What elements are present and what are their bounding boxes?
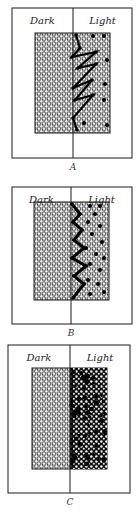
organism-dot <box>103 82 107 86</box>
organism-dot <box>103 433 106 436</box>
organism-dot <box>86 278 90 282</box>
track-point <box>90 78 94 82</box>
organism-dot <box>94 400 99 405</box>
track-point <box>72 274 76 278</box>
panel-c: DarkLightC <box>8 345 130 507</box>
organism-dot <box>83 434 87 438</box>
organism-dot <box>90 232 94 236</box>
organism-dot <box>83 395 88 400</box>
panel-caption: A <box>69 162 77 172</box>
organism-dot <box>88 399 90 401</box>
track-point <box>70 202 74 206</box>
organism-dot <box>73 455 77 459</box>
organism-dot <box>86 423 89 426</box>
organism-dot <box>98 450 101 453</box>
organism-dot <box>74 385 76 387</box>
organism-dot <box>84 461 89 466</box>
track-point <box>72 238 76 242</box>
light-side-label: Light <box>86 352 115 363</box>
organism-dot <box>102 256 106 260</box>
track-point <box>74 33 78 37</box>
organism-dot <box>102 98 106 102</box>
organism-dot <box>84 246 88 250</box>
light-side-label: Light <box>88 15 117 26</box>
dark-side-label: Dark <box>29 15 55 26</box>
organism-dot <box>85 380 90 385</box>
organism-dot <box>102 400 106 404</box>
track-point <box>94 50 98 54</box>
track-point <box>75 128 79 132</box>
organism-dot <box>100 395 102 397</box>
organism-dot <box>102 458 107 463</box>
track-point <box>71 220 75 224</box>
organism-dot <box>77 396 82 401</box>
organism-dot <box>94 430 97 433</box>
organism-dot <box>90 377 94 381</box>
light-dark-preference-figure: DarkLightADarkLightBDarkLightC <box>0 0 139 512</box>
organism-dot <box>91 34 95 38</box>
organism-dot <box>82 386 86 390</box>
organism-dot <box>86 220 90 224</box>
track-point <box>76 66 80 70</box>
organism-dot <box>94 252 98 256</box>
organism-dot <box>83 416 87 420</box>
track-point <box>78 46 82 50</box>
organism-dot <box>96 282 100 286</box>
light-side-label: Light <box>87 194 116 205</box>
organism-dot <box>88 262 92 266</box>
organism-dot <box>88 432 91 435</box>
dark-side-label: Dark <box>28 194 54 205</box>
organism-dot <box>88 292 92 296</box>
dark-side-label: Dark <box>26 352 52 363</box>
panel-caption: C <box>67 497 74 507</box>
track-point <box>71 86 75 90</box>
organism-dot <box>73 415 77 419</box>
organism-dot <box>103 412 106 415</box>
track-point <box>71 116 75 120</box>
track-point <box>94 62 98 66</box>
organism-dot <box>102 34 106 38</box>
organism-dot <box>85 411 88 414</box>
organism-dot <box>84 453 88 457</box>
organism-dot <box>92 382 95 385</box>
track-point <box>73 98 77 102</box>
panel-a: DarkLightA <box>12 8 132 172</box>
organism-dot <box>92 453 95 456</box>
track-point <box>91 93 95 97</box>
organism-dot <box>82 121 86 125</box>
organism-dot <box>98 224 102 228</box>
organism-dot <box>105 123 109 127</box>
organism-dot <box>98 385 101 388</box>
organism-dot <box>89 416 92 419</box>
organism-dot <box>100 414 103 417</box>
organism-dot <box>84 405 88 409</box>
organism-dot <box>102 290 106 294</box>
organism-dot <box>100 240 104 244</box>
organism-dot <box>102 419 104 421</box>
organism-dot <box>89 407 94 412</box>
organism-dot <box>93 212 97 216</box>
organism-dot <box>74 436 78 440</box>
organism-dot <box>79 371 83 375</box>
organism-dot <box>105 58 109 62</box>
organism-dot <box>95 444 99 448</box>
panel-b: DarkLightB <box>12 187 132 338</box>
track-point <box>80 228 84 232</box>
organism-dot <box>93 385 96 388</box>
organism-dot <box>96 457 100 461</box>
organism-dot <box>78 434 81 437</box>
organism-dot <box>83 375 88 380</box>
track-point <box>70 256 74 260</box>
organism-dot <box>76 406 80 410</box>
organism-dot <box>78 442 83 447</box>
organism-dot <box>98 268 102 272</box>
track-point <box>78 212 82 216</box>
track-point <box>71 296 75 300</box>
track-point <box>70 55 74 59</box>
panel-caption: B <box>67 328 75 338</box>
track-point <box>82 282 86 286</box>
track-point <box>84 264 88 268</box>
organism-dot <box>94 393 99 398</box>
